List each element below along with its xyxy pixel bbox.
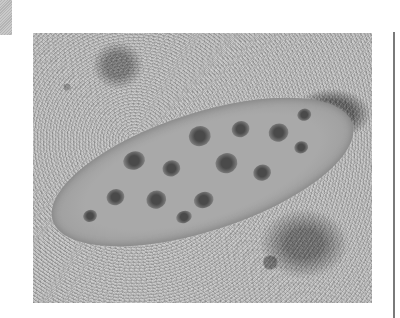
fish-spot: [121, 149, 147, 173]
fish-spot: [296, 107, 313, 123]
fish-spot: [293, 139, 310, 155]
fish-spot: [266, 121, 291, 144]
fish-spot: [251, 162, 273, 183]
fish-spot: [213, 150, 240, 176]
page-edge-tab: [0, 0, 12, 35]
fish-spot: [82, 208, 99, 224]
fish-spot: [160, 158, 182, 179]
fish-spot: [175, 209, 194, 225]
fish-spot: [144, 188, 169, 211]
margin-rule: [393, 32, 395, 318]
fish-spot: [230, 119, 252, 140]
fish-spot: [186, 123, 213, 149]
flatfish-photo: [33, 33, 372, 303]
fish-spot: [192, 189, 216, 210]
fish-spot: [104, 187, 126, 208]
